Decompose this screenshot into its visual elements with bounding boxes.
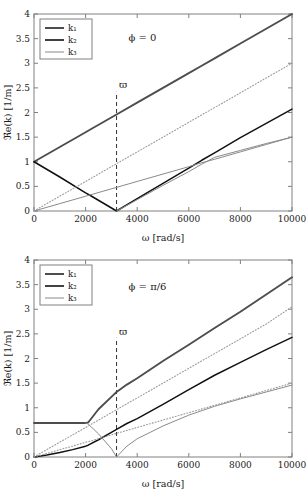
y-tick-label: 3 <box>24 304 30 314</box>
legend-label-k₂: k₂ <box>68 281 77 291</box>
y-tick-label: 4 <box>24 9 30 19</box>
legend-label-k₂: k₂ <box>68 35 77 45</box>
y-tick-label: 1.5 <box>16 132 31 142</box>
x-tick-label: 6000 <box>177 214 200 224</box>
y-tick-label: 0 <box>24 206 30 216</box>
x-tick-label: 10000 <box>278 214 307 224</box>
legend-label-k₃: k₃ <box>68 293 77 303</box>
dispersion-figure: 020004000600080001000000.511.522.533.54ω… <box>0 0 308 491</box>
x-tick-label: 10000 <box>278 460 307 470</box>
phase-annotation: ϕ = π/6 <box>129 281 167 292</box>
x-tick-label: 0 <box>31 460 37 470</box>
chart-svg-phi-0: 020004000600080001000000.511.522.533.54ω… <box>0 0 308 245</box>
x-tick-label: 6000 <box>177 460 200 470</box>
marker-label: ϖ <box>119 79 127 90</box>
phase-annotation: ϕ = 0 <box>128 32 156 43</box>
y-axis-title: ℜe(k) [1/m] <box>2 331 13 386</box>
y-tick-label: 4 <box>24 255 30 265</box>
y-tick-label: 1.5 <box>16 378 31 388</box>
x-axis-title: ω [rad/s] <box>142 478 185 489</box>
y-tick-label: 0.5 <box>16 427 31 437</box>
chart-panel-phi-pi-6: 020004000600080001000000.511.522.533.54ω… <box>0 246 308 491</box>
legend-label-k₁: k₁ <box>68 23 77 33</box>
legend-box[interactable] <box>40 265 92 305</box>
chart-panel-phi-0: 020004000600080001000000.511.522.533.54ω… <box>0 0 308 245</box>
y-tick-label: 2 <box>24 354 30 364</box>
legend-label-k₃: k₃ <box>68 47 77 57</box>
y-tick-label: 1 <box>24 403 30 413</box>
y-tick-label: 2.5 <box>16 83 31 93</box>
x-tick-label: 8000 <box>229 460 252 470</box>
y-tick-label: 3.5 <box>16 34 31 44</box>
marker-label: ϖ <box>119 326 127 337</box>
y-axis-title: ℜe(k) [1/m] <box>2 85 13 140</box>
legend-label-k₁: k₁ <box>68 269 77 279</box>
x-tick-label: 2000 <box>74 214 97 224</box>
y-tick-label: 2.5 <box>16 329 31 339</box>
x-tick-label: 4000 <box>126 214 149 224</box>
y-tick-label: 0 <box>24 452 30 462</box>
x-tick-label: 4000 <box>126 460 149 470</box>
y-tick-label: 1 <box>24 157 30 167</box>
y-tick-label: 2 <box>24 108 30 118</box>
chart-svg-phi-pi-6: 020004000600080001000000.511.522.533.54ω… <box>0 246 308 491</box>
x-tick-label: 2000 <box>74 460 97 470</box>
x-axis-title: ω [rad/s] <box>142 232 185 243</box>
y-tick-label: 3 <box>24 58 30 68</box>
x-tick-label: 8000 <box>229 214 252 224</box>
y-tick-label: 0.5 <box>16 181 31 191</box>
y-tick-label: 3.5 <box>16 280 31 290</box>
x-tick-label: 0 <box>31 214 37 224</box>
legend-box[interactable] <box>40 19 92 59</box>
